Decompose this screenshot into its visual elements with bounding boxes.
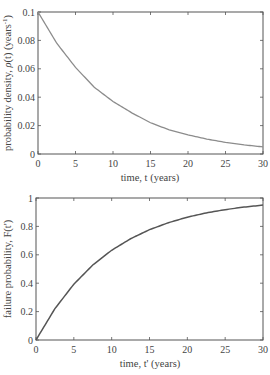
plot-frame [38, 12, 263, 154]
y-ticks: 00.020.040.060.080.1 [18, 7, 264, 160]
x-tick-label: 25 [221, 158, 231, 169]
x-tick-label: 20 [183, 158, 193, 169]
y-tick-label: 1 [28, 193, 33, 204]
y-tick-label: 0.02 [18, 120, 36, 131]
x-tick-label: 20 [182, 344, 192, 355]
y-axis-label: failure probability, F(t') [2, 219, 14, 318]
y-tick-label: 0.06 [18, 63, 36, 74]
x-ticks: 051015202530 [36, 12, 269, 169]
y-tick-label: 0.4 [21, 278, 34, 289]
y-tick-label: 0.04 [18, 92, 36, 103]
x-tick-label: 25 [220, 344, 230, 355]
x-tick-label: 0 [34, 344, 39, 355]
y-tick-label: 0.2 [21, 306, 34, 317]
y-tick-label: 0 [28, 335, 33, 346]
failure-probability-plot: 051015202530 00.20.40.60.81 time, t' (ye… [2, 193, 268, 371]
y-axis-label: probability density, ρ(t) (years-1) [1, 14, 14, 151]
x-tick-label: 10 [108, 158, 118, 169]
figure: 051015202530 00.020.040.060.080.1 time, … [0, 0, 270, 375]
y-tick-label: 0.08 [18, 35, 36, 46]
y-tick-label: 0.8 [21, 221, 34, 232]
density-curve [38, 12, 263, 147]
y-tick-label: 0.6 [21, 249, 34, 260]
x-tick-label: 5 [73, 158, 78, 169]
x-tick-label: 5 [71, 344, 76, 355]
x-axis-label: time, t' (years) [120, 358, 181, 370]
y-tick-label: 0 [30, 149, 35, 160]
plot-frame [36, 198, 263, 340]
x-ticks: 051015202530 [34, 198, 269, 355]
failure-probability-curve [36, 205, 263, 340]
x-tick-label: 15 [146, 158, 156, 169]
y-tick-label: 0.1 [23, 7, 36, 18]
y-ticks: 00.20.40.60.81 [21, 193, 264, 346]
x-tick-label: 30 [258, 158, 268, 169]
x-tick-label: 10 [107, 344, 117, 355]
x-tick-label: 30 [258, 344, 268, 355]
x-axis-label: time, t (years) [121, 172, 180, 184]
x-tick-label: 15 [145, 344, 155, 355]
density-plot: 051015202530 00.020.040.060.080.1 time, … [1, 7, 268, 185]
x-tick-label: 0 [36, 158, 41, 169]
